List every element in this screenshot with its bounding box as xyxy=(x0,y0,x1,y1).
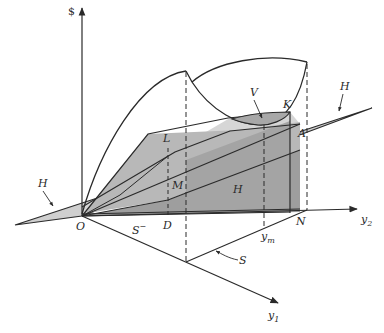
ym-sub: m xyxy=(267,236,275,245)
y1-axis xyxy=(82,216,278,303)
label-k: K xyxy=(282,98,292,111)
label-s-minus: S− xyxy=(132,222,146,237)
bowl-top xyxy=(192,58,307,82)
s-minus-sup: − xyxy=(140,222,147,231)
label-n: N xyxy=(295,215,306,228)
y1-axis-label: y1 xyxy=(267,309,279,324)
origin-label: O xyxy=(76,220,85,233)
label-s: S xyxy=(239,254,247,267)
label-h-left: H xyxy=(37,177,48,190)
diagram-svg: $ O y2 y1 L M D N K A V H H H S− S ym xyxy=(0,0,384,333)
label-h-center: H xyxy=(232,183,243,196)
label-ym: ym xyxy=(260,230,275,245)
s-pointer xyxy=(216,251,238,260)
label-l: L xyxy=(162,132,170,145)
label-v: V xyxy=(250,86,259,99)
y2-axis-label: y2 xyxy=(360,213,372,228)
diagram-canvas: $ O y2 y1 L M D N K A V H H H S− S ym xyxy=(0,0,384,333)
y2-sub: 2 xyxy=(366,219,372,228)
label-a: A xyxy=(297,127,306,140)
h-right-arrow xyxy=(339,94,343,111)
label-h-right: H xyxy=(339,80,350,93)
y1-sub: 1 xyxy=(274,315,279,324)
label-m: M xyxy=(171,179,184,192)
h-left-arrow xyxy=(43,191,53,206)
dollar-axis-label: $ xyxy=(68,5,75,18)
label-d: D xyxy=(162,219,172,232)
